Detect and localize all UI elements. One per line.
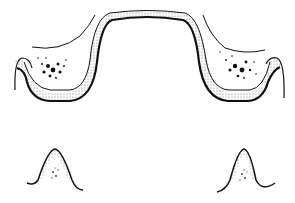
left-cancellous-region: [37, 57, 67, 79]
right-upper-arc: [203, 15, 265, 52]
left-upper-arc: [32, 15, 95, 48]
ridge-dots: [51, 167, 58, 178]
diagram-canvas: [0, 0, 295, 203]
upper-arch-cross-section: [15, 11, 284, 102]
stippled-layer: [15, 11, 282, 100]
ridge-dots: [239, 169, 247, 180]
ridge-outer: [27, 149, 83, 190]
lower-left-ridge: [27, 149, 83, 190]
lower-right-ridge: [217, 149, 275, 192]
right-cancellous-region: [219, 51, 256, 79]
outer-contour: [17, 17, 280, 101]
